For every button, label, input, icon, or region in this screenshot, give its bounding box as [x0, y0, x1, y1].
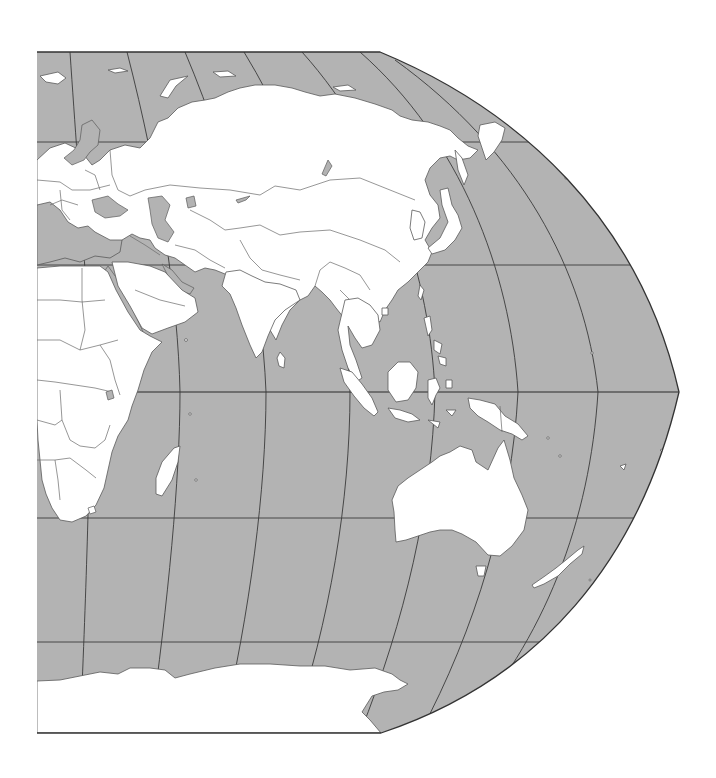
hainan	[382, 308, 388, 315]
tasmania	[476, 566, 486, 576]
antarctica	[37, 664, 408, 733]
aral-sea	[186, 196, 196, 208]
world-map	[0, 0, 716, 778]
